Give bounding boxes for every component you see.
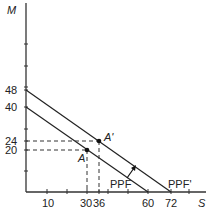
y-tick-label-48: 48 bbox=[5, 84, 17, 96]
x-tick-label-36: 36 bbox=[93, 197, 105, 209]
ppf-chart: M S 48 40 24 20 10 30 36 60 72 A' A PPF … bbox=[0, 0, 215, 213]
point-a bbox=[85, 148, 90, 153]
ppf-prime-label: PPF' bbox=[168, 178, 192, 190]
y-tick-label-40: 40 bbox=[5, 101, 17, 113]
point-a-prime bbox=[97, 139, 102, 144]
point-a-label: A bbox=[77, 152, 85, 164]
x-tick-label-30: 30 bbox=[80, 197, 92, 209]
ppf-label: PPF bbox=[110, 178, 132, 190]
y-axis-label: M bbox=[7, 4, 17, 16]
y-tick-label-20: 20 bbox=[5, 144, 17, 156]
x-tick-label-60: 60 bbox=[142, 197, 154, 209]
shift-arrow-icon bbox=[127, 165, 136, 178]
point-a-prime-label: A' bbox=[103, 131, 114, 143]
chart-canvas: M S 48 40 24 20 10 30 36 60 72 A' A PPF … bbox=[0, 0, 215, 213]
x-axis-label: S bbox=[198, 197, 206, 209]
x-tick-label-72: 72 bbox=[165, 197, 177, 209]
x-tick-label-10: 10 bbox=[42, 197, 54, 209]
